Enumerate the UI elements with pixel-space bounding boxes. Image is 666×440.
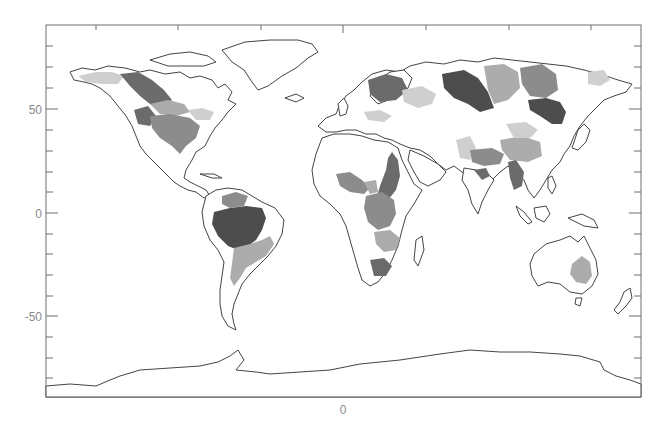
y-tick-label-neg50: -50 xyxy=(25,310,43,324)
world-basin-map: 50 0 -50 0 xyxy=(0,0,666,440)
y-tick-label-0: 0 xyxy=(35,207,42,221)
x-tick-label-0: 0 xyxy=(340,403,347,417)
tasmania xyxy=(575,298,582,306)
cuba xyxy=(200,174,222,178)
y-axis-ticks-right xyxy=(629,46,641,378)
x-axis-ticks-top xyxy=(96,25,591,33)
borneo xyxy=(534,206,550,222)
madagascar xyxy=(414,236,424,266)
sumatra xyxy=(516,206,532,224)
y-axis-ticks-left xyxy=(46,46,58,378)
arctic-archipelago xyxy=(150,52,216,66)
y-tick-label-50: 50 xyxy=(29,103,43,117)
iceland xyxy=(285,94,304,102)
antarctica xyxy=(46,350,641,397)
philippines xyxy=(548,176,556,194)
greenland xyxy=(222,40,318,90)
new-zealand xyxy=(614,288,632,314)
new-guinea xyxy=(568,214,598,228)
